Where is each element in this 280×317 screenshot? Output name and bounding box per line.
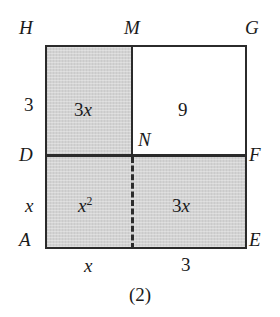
vertex-label-D: D xyxy=(19,145,33,164)
dimension-label-bottom-right: 3 xyxy=(181,255,191,274)
area-top-left-variable: x xyxy=(84,99,92,120)
area-top-right-coefficient: 9 xyxy=(178,99,188,120)
vertex-label-G: G xyxy=(245,18,259,37)
divider-line-MN-solid xyxy=(131,45,133,156)
dimension-label-left-lower: x xyxy=(25,196,33,215)
dimension-label-bottom-left: x xyxy=(84,256,92,275)
area-bottom-right-variable: x xyxy=(182,195,190,216)
vertex-label-M: M xyxy=(124,18,140,37)
area-label-bottom-left: x2 xyxy=(78,196,92,215)
area-bottom-left-exponent: 2 xyxy=(86,195,92,208)
geometry-figure: H M G D N F A E 3 x x 3 3x 9 x2 3x (2) xyxy=(0,0,280,317)
area-label-bottom-right: 3x xyxy=(172,196,190,215)
vertex-label-A: A xyxy=(19,230,31,249)
dimension-label-left-upper: 3 xyxy=(24,95,34,114)
area-label-top-left: 3x xyxy=(74,100,92,119)
divider-line-DF xyxy=(45,154,247,157)
divider-line-N-to-bottom-dashed xyxy=(131,157,134,249)
area-bottom-right-coefficient: 3 xyxy=(172,195,182,216)
vertex-label-E: E xyxy=(249,230,261,249)
vertex-label-H: H xyxy=(19,18,33,37)
area-label-top-right: 9 xyxy=(178,100,188,119)
vertex-label-N: N xyxy=(138,130,151,149)
area-top-left-coefficient: 3 xyxy=(74,99,84,120)
figure-caption: (2) xyxy=(0,285,280,304)
vertex-label-F: F xyxy=(249,145,261,164)
